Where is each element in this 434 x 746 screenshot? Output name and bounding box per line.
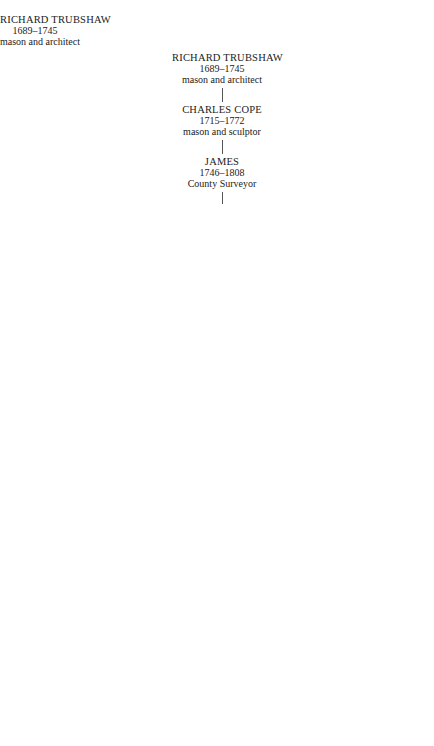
connector — [222, 88, 223, 102]
tree-canvas: RICHARD TRUBSHAW 1689–1745 mason and arc… — [0, 0, 434, 746]
connector — [222, 140, 223, 154]
connector — [222, 192, 223, 204]
node-james-1746: JAMES 1746–1808 County Surveyor — [172, 156, 272, 189]
node-charles-cope: CHARLES COPE 1715–1772 mason and sculpto… — [172, 104, 272, 137]
family-tree-diagram: RICHARD TRUBSHAW 1689–1745 mason and arc… — [0, 0, 434, 746]
node-richard-trubshaw-main: RICHARD TRUBSHAW 1689–1745 mason and arc… — [172, 52, 272, 85]
